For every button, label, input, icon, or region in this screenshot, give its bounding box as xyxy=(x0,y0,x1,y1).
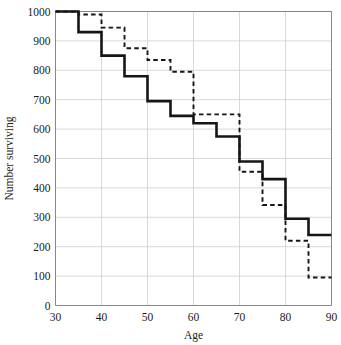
x-tick-label: 30 xyxy=(50,311,62,323)
x-axis-title: Age xyxy=(184,329,203,342)
x-tick-label: 40 xyxy=(96,311,108,323)
x-tick-label: 90 xyxy=(326,311,338,323)
y-tick-label: 1000 xyxy=(28,6,51,18)
y-tick-label: 800 xyxy=(33,64,51,76)
y-tick-label: 700 xyxy=(33,94,51,106)
survival-curve-chart: 01002003004005006007008009001000 3040506… xyxy=(0,0,341,345)
y-axis-title: Number surviving xyxy=(3,116,16,200)
x-tick-label: 50 xyxy=(142,311,154,323)
y-tick-label: 900 xyxy=(33,35,51,47)
y-tick-labels: 01002003004005006007008009001000 xyxy=(28,6,51,312)
y-tick-label: 200 xyxy=(33,241,51,253)
y-tick-label: 500 xyxy=(33,153,51,165)
x-tick-label: 70 xyxy=(234,311,246,323)
x-tick-labels: 30405060708090 xyxy=(50,311,338,323)
y-tick-label: 300 xyxy=(33,211,51,223)
x-tick-label: 80 xyxy=(280,311,292,323)
y-tick-label: 400 xyxy=(33,182,51,194)
y-tick-label: 600 xyxy=(33,123,51,135)
chart-svg: 01002003004005006007008009001000 3040506… xyxy=(0,0,341,345)
y-tick-label: 100 xyxy=(33,270,51,282)
x-tick-label: 60 xyxy=(188,311,200,323)
